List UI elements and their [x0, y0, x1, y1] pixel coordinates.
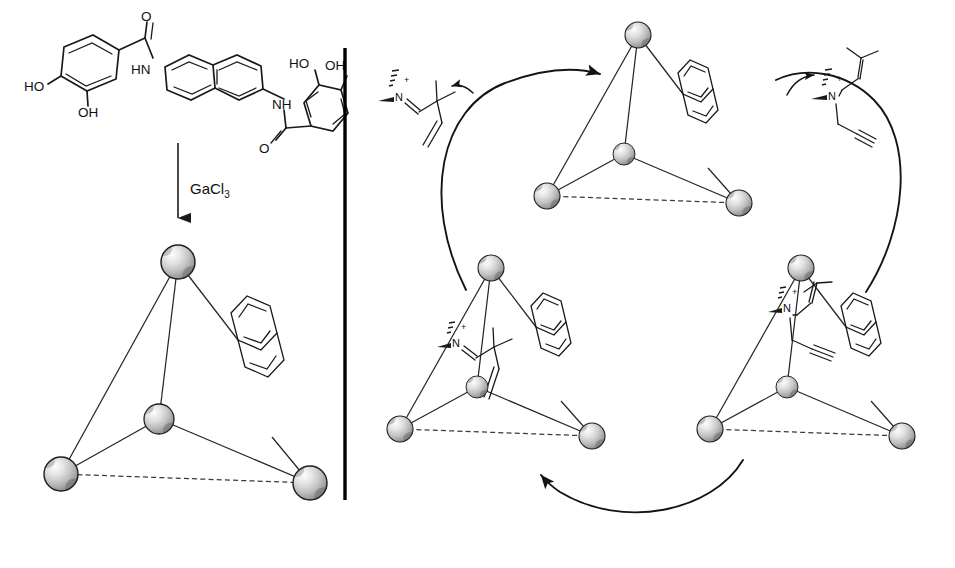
- substrate-wedge-methyl: [378, 97, 394, 102]
- left-catechol-ring: [48, 35, 119, 106]
- substrate-nitrogen-label: N: [395, 91, 403, 103]
- cage-vertex-apex: [161, 245, 195, 279]
- cage-large: [44, 245, 327, 500]
- product-guest-nitrogen-label: N: [783, 302, 791, 314]
- ligand-structure: HO OH O HN NH O: [24, 9, 348, 156]
- naphthalene-linker-bottom-left: [531, 293, 571, 356]
- product-guest-charge-label: +: [792, 287, 797, 297]
- reagent-label-gacl3: GaCl3: [190, 180, 230, 200]
- cage-top: [534, 22, 752, 216]
- cage-top-vertex-left: [534, 183, 560, 209]
- cage-br-vertex-right: [889, 423, 915, 449]
- cage-bottom-left: N +: [387, 255, 605, 449]
- substrate-enammonium: N +: [378, 70, 473, 147]
- label-right-carbonyl-O: O: [259, 141, 270, 156]
- cage-br-vertex-left: [697, 416, 723, 442]
- label-right-OH: OH: [325, 58, 345, 73]
- cage-bottom-right: N +: [697, 255, 915, 449]
- product-wedge-methyl: [811, 95, 827, 100]
- reagent-formula: GaCl: [190, 180, 224, 197]
- label-right-HO: HO: [289, 56, 309, 71]
- cage-br-vertex-apex: [788, 255, 814, 281]
- naphthalene-linker-bottom-right: [841, 293, 881, 356]
- label-left-HO-meta: HO: [24, 79, 44, 94]
- guest-nitrogen-label: N: [452, 337, 460, 349]
- naphthalene-linker-large: [231, 296, 284, 377]
- product-nitrogen-label: N: [828, 90, 836, 102]
- cage-top-vertex-right: [726, 190, 752, 216]
- product-guest-wedge-methyl: [768, 308, 782, 313]
- cage-top-vertex-apex: [625, 22, 651, 48]
- rearrangement-arc: [541, 460, 743, 512]
- left-amide-group: [119, 22, 153, 58]
- cage-vertex-left: [44, 457, 78, 491]
- cage-bl-vertex-center: [466, 376, 488, 398]
- cage-bl-vertex-apex: [478, 255, 504, 281]
- naphthalene-core: [165, 55, 263, 100]
- cage-top-vertex-center: [613, 143, 635, 165]
- guest-charge-label: +: [461, 322, 466, 332]
- reaction-scheme-canvas: HO OH O HN NH O: [0, 0, 955, 568]
- cage-bl-vertex-left: [387, 416, 413, 442]
- substrate-charge-label: +: [404, 75, 409, 85]
- cage-br-vertex-center: [776, 376, 798, 398]
- cage-vertex-center: [144, 404, 174, 434]
- right-catechol-ring: [304, 70, 348, 131]
- substrate-hash-methyl: [389, 70, 399, 86]
- label-right-amide-NH: NH: [272, 97, 292, 112]
- naphthalene-linker-top: [678, 60, 718, 123]
- guest-wedge-methyl: [437, 343, 451, 348]
- reagent-subscript: 3: [224, 189, 230, 200]
- label-left-carbonyl-O: O: [141, 9, 152, 24]
- label-left-OH-ortho: OH: [78, 105, 98, 120]
- product-hash-methyl: [822, 69, 832, 85]
- label-left-amide-HN: HN: [131, 62, 151, 77]
- product-iminium: N +: [787, 48, 878, 147]
- bound-product-guest: N +: [768, 282, 835, 361]
- cage-vertex-right: [293, 466, 327, 500]
- cage-bl-vertex-right: [579, 423, 605, 449]
